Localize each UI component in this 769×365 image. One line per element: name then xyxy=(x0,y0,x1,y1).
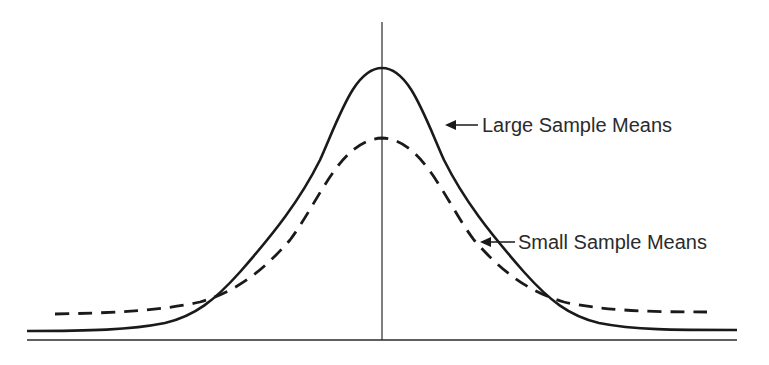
small-sample-means-label: Small Sample Means xyxy=(518,231,707,253)
distribution-diagram: Large Sample Means Small Sample Means xyxy=(0,0,769,365)
large-sample-label-group: Large Sample Means xyxy=(445,114,672,136)
small-sample-label-group: Small Sample Means xyxy=(480,231,707,253)
large-sample-means-label: Large Sample Means xyxy=(482,114,672,136)
small-sample-means-curve xyxy=(55,138,707,314)
arrow-left-icon xyxy=(445,120,456,130)
arrow-left-icon xyxy=(480,237,491,247)
